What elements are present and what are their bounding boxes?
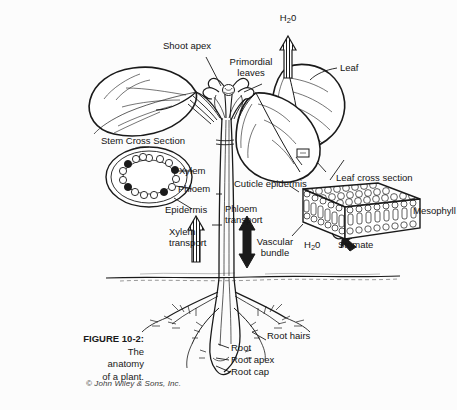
figure-caption: FIGURE 10-2: The anatomy of a plant. [26, 333, 144, 383]
leader-root [218, 344, 229, 348]
leader-vascular-bundle [292, 224, 303, 236]
label-phloem: Phloem [178, 183, 210, 194]
label-water-top: H20 [264, 12, 312, 26]
label-root-apex: Root apex [231, 354, 274, 365]
label-phloem-transport: Phloem transport [225, 203, 263, 225]
label-leaf-cross-section: Leaf cross section [336, 172, 413, 183]
label-leaf: Leaf [340, 62, 359, 73]
label-vascular-bundle: Vascular bundle [250, 236, 300, 258]
label-xylem: Xylem [179, 165, 205, 176]
copyright-notice: © John Wiley & Sons, Inc. [86, 379, 181, 388]
stem-cross-section-diagram [106, 147, 192, 207]
label-xylem-transport: Xylem transport [169, 226, 207, 248]
label-water-leaf: H20 [304, 239, 320, 253]
label-root-cap: Root cap [231, 366, 269, 377]
label-mesophyll: Mesophyll [413, 205, 456, 216]
label-stomate: Stomate [338, 239, 373, 250]
root-cap-shape [216, 370, 231, 375]
figure-caption-line-1: The [26, 346, 144, 359]
left-leaf [89, 67, 196, 136]
figure-number: FIGURE 10-2: [26, 333, 144, 346]
label-cuticle-epidermis: Cuticle epidermis [234, 178, 307, 189]
label-primordial-leaves: Primordial leaves [216, 56, 286, 78]
leader-leafcross-a [317, 162, 326, 172]
ground-line [106, 273, 400, 281]
figure-caption-line-2: anatomy [26, 358, 144, 371]
leaf-cross-section-block [303, 182, 420, 239]
root-system [142, 278, 310, 375]
leaf-callout-rect [297, 149, 309, 157]
label-epidermis: Epidermis [165, 204, 207, 215]
label-root-hairs: Root hairs [267, 330, 310, 341]
figure-page: H20 Shoot apex Primordial leaves Leaf St… [0, 0, 457, 410]
label-root: Root [231, 342, 251, 353]
label-shoot-apex: Shoot apex [163, 40, 211, 51]
label-stem-cross-section: Stem Cross Section [101, 135, 185, 146]
